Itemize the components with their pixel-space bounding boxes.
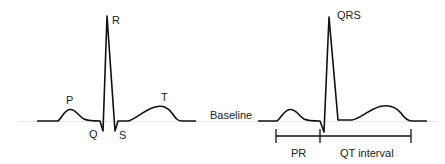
left-ecg-trace xyxy=(37,16,196,131)
ecg-diagram: P R Q S T Baseline QRS PR QT interval xyxy=(0,0,445,164)
pr-interval-label: PR xyxy=(291,147,306,159)
t-wave-label: T xyxy=(161,91,168,103)
r-wave-label: R xyxy=(112,14,120,26)
interval-bracket xyxy=(276,129,411,143)
right-ecg-waveform: QRS PR QT interval xyxy=(258,9,427,159)
qrs-label: QRS xyxy=(337,9,361,21)
baseline-label: Baseline xyxy=(210,109,252,121)
qt-interval-label: QT interval xyxy=(340,147,394,159)
s-wave-label: S xyxy=(119,129,126,141)
p-wave-label: P xyxy=(66,94,73,106)
right-ecg-trace xyxy=(258,17,427,132)
q-wave-label: Q xyxy=(89,128,98,140)
